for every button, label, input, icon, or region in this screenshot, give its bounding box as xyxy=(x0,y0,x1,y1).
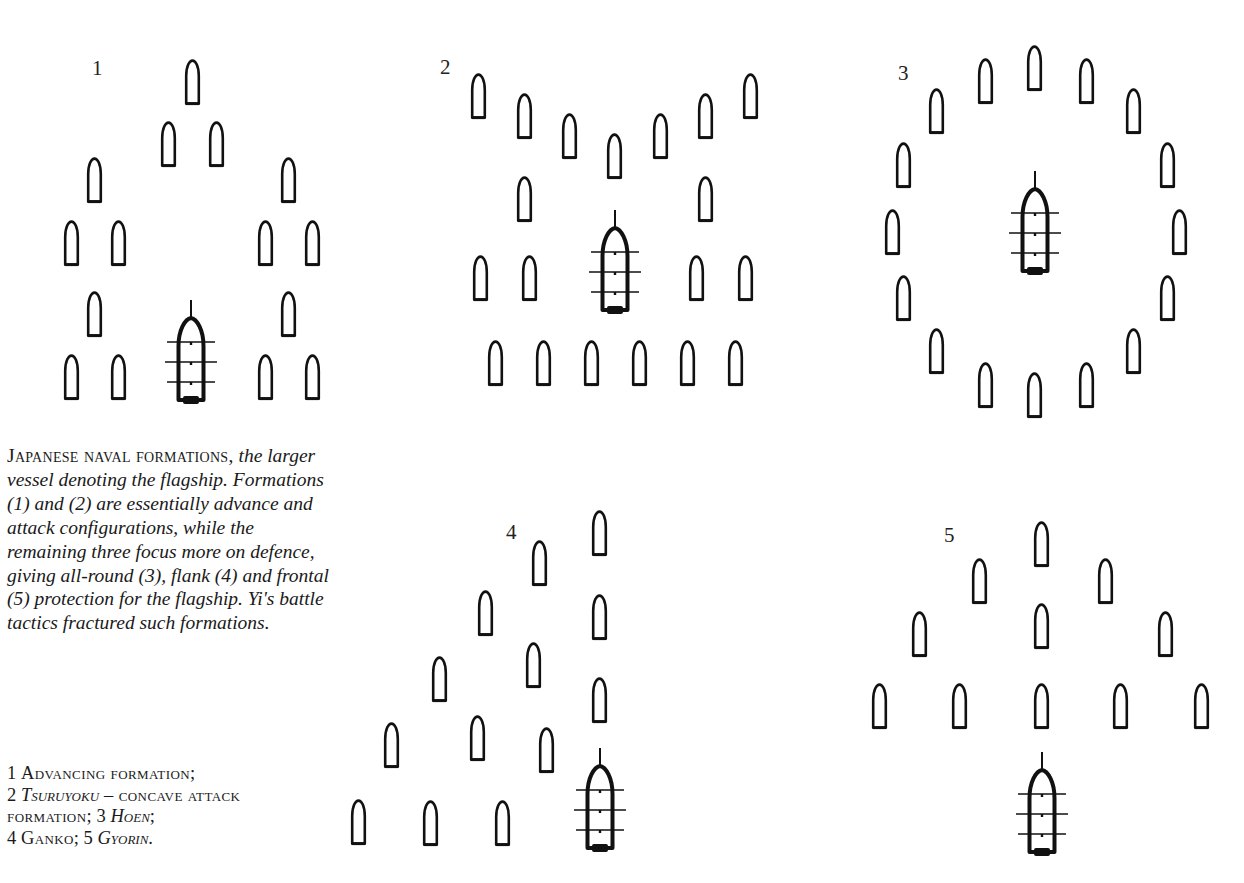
escort-vessel-icon xyxy=(897,144,910,187)
escort-vessel-icon xyxy=(1099,560,1112,603)
escort-vessel-icon xyxy=(474,257,487,300)
key-separator: . xyxy=(148,828,153,848)
caption-body: the larger vessel denoting the flagship.… xyxy=(7,445,329,633)
key-number: 5 xyxy=(84,828,93,848)
escort-vessel-icon xyxy=(973,560,986,603)
escort-vessel-icon xyxy=(1161,144,1174,187)
escort-vessel-icon xyxy=(681,342,694,385)
escort-vessel-icon xyxy=(593,512,606,555)
key-number: 2 xyxy=(7,785,16,805)
escort-vessel-icon xyxy=(527,644,540,687)
escort-vessel-icon xyxy=(1161,277,1174,320)
escort-vessel-icon xyxy=(1035,685,1048,728)
escort-vessel-icon xyxy=(1159,613,1172,656)
escort-vessel-icon xyxy=(112,222,125,265)
key-name-gyorin: Gyorin xyxy=(97,828,148,848)
formation-label-5: 5 xyxy=(944,525,955,546)
escort-vessel-icon xyxy=(1173,211,1186,254)
escort-vessel-icon xyxy=(1195,685,1208,728)
flagship-icon xyxy=(589,210,641,314)
escort-vessel-icon xyxy=(385,724,398,767)
escort-vessel-icon xyxy=(518,178,531,221)
formation-1 xyxy=(65,61,319,404)
escort-vessel-icon xyxy=(1028,47,1041,90)
formation-5 xyxy=(873,523,1208,856)
escort-vessel-icon xyxy=(1035,523,1048,566)
escort-vessel-icon xyxy=(1035,605,1048,648)
key-line-2: 2 Tsuruyoku – concave attack formation; … xyxy=(7,785,327,828)
key-name-tsuruyoku: Tsuruyoku xyxy=(21,785,99,805)
escort-vessel-icon xyxy=(1080,60,1093,103)
formation-label-1: 1 xyxy=(92,58,103,79)
escort-vessel-icon xyxy=(1028,374,1041,417)
flagship-icon xyxy=(1016,752,1068,856)
escort-vessel-icon xyxy=(88,293,101,336)
escort-vessel-icon xyxy=(979,60,992,103)
escort-vessel-icon xyxy=(563,115,576,158)
escort-vessel-icon xyxy=(472,75,485,118)
key-separator: ; xyxy=(150,806,155,826)
escort-vessel-icon xyxy=(953,685,966,728)
escort-vessel-icon xyxy=(433,658,446,701)
escort-vessel-icon xyxy=(537,342,550,385)
escort-vessel-icon xyxy=(533,542,546,585)
escort-vessel-icon xyxy=(282,159,295,202)
formation-label-4: 4 xyxy=(506,522,517,543)
escort-vessel-icon xyxy=(518,95,531,138)
flagship-icon xyxy=(165,300,217,404)
escort-vessel-icon xyxy=(282,293,295,336)
escort-vessel-icon xyxy=(471,717,484,760)
formation-2 xyxy=(472,75,757,385)
escort-vessel-icon xyxy=(1114,685,1127,728)
escort-vessel-icon xyxy=(608,135,621,178)
escort-vessel-icon xyxy=(873,685,886,728)
escort-vessel-icon xyxy=(593,596,606,639)
escort-vessel-icon xyxy=(729,342,742,385)
escort-vessel-icon xyxy=(523,257,536,300)
formation-key: 1 Advancing formation; 2 Tsuruyoku – con… xyxy=(7,763,327,849)
key-number: 3 xyxy=(97,806,106,826)
escort-vessel-icon xyxy=(1080,364,1093,407)
key-separator: ; xyxy=(190,763,195,783)
escort-vessel-icon xyxy=(65,222,78,265)
caption-lead: Japanese naval formations, xyxy=(7,445,234,466)
formation-label-3: 3 xyxy=(898,63,909,84)
escort-vessel-icon xyxy=(593,679,606,722)
escort-vessel-icon xyxy=(210,123,223,166)
key-number: 4 xyxy=(7,828,16,848)
escort-vessel-icon xyxy=(540,729,553,772)
escort-vessel-icon xyxy=(897,277,910,320)
escort-vessel-icon xyxy=(699,178,712,221)
escort-vessel-icon xyxy=(479,592,492,635)
escort-vessel-icon xyxy=(744,75,757,118)
escort-vessel-icon xyxy=(306,356,319,399)
escort-vessel-icon xyxy=(654,115,667,158)
escort-vessel-icon xyxy=(979,364,992,407)
key-name-ganko: Ganko xyxy=(21,828,74,848)
key-number: 1 xyxy=(7,763,16,783)
escort-vessel-icon xyxy=(1127,90,1140,133)
escort-vessel-icon xyxy=(496,802,509,845)
key-name-advancing: Advancing formation xyxy=(21,763,190,783)
escort-vessel-icon xyxy=(424,802,437,845)
escort-vessel-icon xyxy=(112,356,125,399)
escort-vessel-icon xyxy=(186,61,199,104)
escort-vessel-icon xyxy=(585,342,598,385)
escort-vessel-icon xyxy=(88,159,101,202)
naval-formations-diagram xyxy=(0,0,1244,883)
escort-vessel-icon xyxy=(930,330,943,373)
flagship-icon xyxy=(1009,171,1061,275)
escort-vessel-icon xyxy=(352,801,365,844)
escort-vessel-icon xyxy=(930,90,943,133)
figure-caption: Japanese naval formations, the larger ve… xyxy=(7,444,337,635)
formation-label-2: 2 xyxy=(440,57,451,78)
key-line-4: 4 Ganko; 5 Gyorin. xyxy=(7,828,327,850)
flagship-icon xyxy=(574,748,626,852)
formation-3 xyxy=(886,47,1186,417)
escort-vessel-icon xyxy=(913,613,926,656)
key-name-hoen: Hoen xyxy=(110,806,149,826)
key-separator: ; xyxy=(74,828,79,848)
escort-vessel-icon xyxy=(259,222,272,265)
escort-vessel-icon xyxy=(306,222,319,265)
escort-vessel-icon xyxy=(633,342,646,385)
